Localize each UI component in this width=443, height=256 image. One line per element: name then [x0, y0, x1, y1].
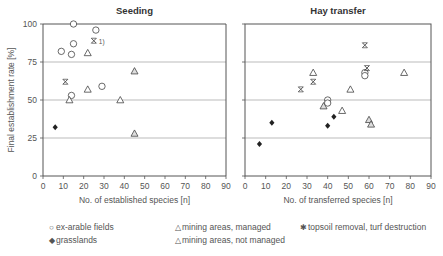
data-point-triangle [401, 69, 408, 75]
data-point-triangle [84, 49, 91, 55]
svg-text:70: 70 [181, 181, 191, 191]
legend-item-topsoil: ✱topsoil removal, turf destruction [300, 222, 426, 232]
data-point-diamond [331, 114, 336, 120]
chart-figure: 01020304050607080900255075100SeedingNo. … [0, 0, 443, 256]
svg-text:Final establishment rate [%]: Final establishment rate [%] [6, 48, 16, 153]
data-point-triangle [310, 69, 317, 75]
legend-item-mining-not-managed: △mining areas, not managed [174, 235, 285, 245]
data-point-circle [362, 72, 368, 78]
data-point-asterisk [362, 43, 367, 48]
asterisk-icon: ✱ [300, 223, 307, 232]
triangle-icon: △ [174, 223, 181, 232]
svg-text:No. of established species [n]: No. of established species [n] [79, 195, 190, 205]
svg-text:60: 60 [364, 181, 374, 191]
svg-text:10: 10 [59, 181, 69, 191]
svg-text:70: 70 [385, 181, 395, 191]
circle-icon: ○ [48, 223, 55, 232]
legend-item-grasslands: ◆grasslands [48, 235, 97, 245]
data-point-circle [58, 48, 64, 54]
svg-text:10: 10 [261, 181, 271, 191]
svg-text:Seeding: Seeding [116, 5, 153, 16]
legend-item-ex-arable: ○ex-arable fields [48, 222, 114, 232]
svg-text:40: 40 [323, 181, 333, 191]
chart-canvas: 01020304050607080900255075100SeedingNo. … [0, 0, 443, 256]
svg-text:60: 60 [160, 181, 170, 191]
svg-text:No. of transferred species [n]: No. of transferred species [n] [283, 195, 392, 205]
svg-text:50: 50 [28, 95, 38, 105]
svg-text:0: 0 [32, 171, 37, 181]
svg-text:30: 30 [302, 181, 312, 191]
data-point-triangle [131, 130, 138, 136]
svg-text:40: 40 [120, 181, 130, 191]
svg-text:30: 30 [99, 181, 109, 191]
svg-text:1): 1) [99, 38, 105, 46]
diamond-icon: ◆ [48, 236, 55, 245]
data-point-diamond [269, 120, 274, 126]
svg-text:25: 25 [28, 133, 38, 143]
data-point-triangle [131, 68, 138, 74]
data-point-circle [70, 21, 76, 27]
triangle-hatched-icon: △ [174, 236, 181, 245]
data-point-asterisk [298, 87, 303, 92]
data-point-asterisk [311, 79, 316, 84]
data-point-triangle [339, 107, 346, 113]
data-point-circle [93, 27, 99, 33]
svg-text:75: 75 [28, 57, 38, 67]
svg-text:100: 100 [23, 19, 37, 29]
svg-text:90: 90 [221, 181, 231, 191]
data-point-circle [70, 41, 76, 47]
data-point-circle [99, 83, 105, 89]
svg-text:20: 20 [282, 181, 292, 191]
legend-item-mining-managed: △mining areas, managed [174, 222, 271, 232]
data-point-asterisk [91, 38, 96, 43]
svg-text:80: 80 [406, 181, 416, 191]
svg-text:0: 0 [41, 181, 46, 191]
data-point-triangle [84, 86, 91, 92]
plot-hay-transfer [242, 24, 431, 179]
plot-seeding [40, 21, 226, 179]
svg-text:90: 90 [426, 181, 436, 191]
svg-text:Hay transfer: Hay transfer [310, 5, 366, 16]
svg-text:80: 80 [201, 181, 211, 191]
data-point-triangle [347, 86, 354, 92]
svg-text:50: 50 [344, 181, 354, 191]
svg-text:50: 50 [140, 181, 150, 191]
data-point-asterisk [63, 79, 68, 84]
data-point-diamond [53, 124, 58, 130]
data-point-diamond [257, 141, 262, 147]
data-point-diamond [325, 123, 330, 129]
data-point-circle [68, 51, 74, 57]
svg-text:20: 20 [79, 181, 89, 191]
svg-text:0: 0 [243, 181, 248, 191]
